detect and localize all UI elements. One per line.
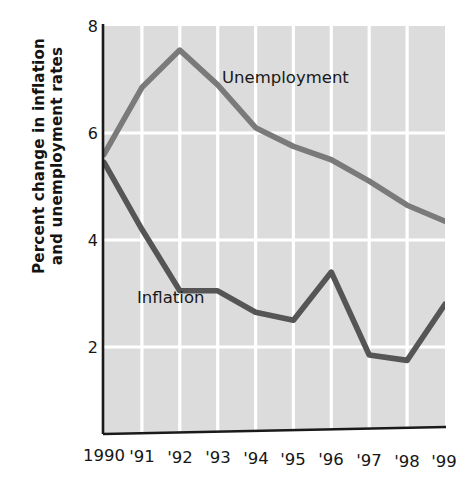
x-tick-label-96: '96 bbox=[318, 450, 344, 469]
x-tick-label-1990: 1990 bbox=[83, 446, 125, 465]
x-tick-label-98: '98 bbox=[394, 452, 420, 471]
x-axis-tick-labels: 1990 '91 '92 '93 '94 '95 '96 '97 '98 '99 bbox=[0, 0, 466, 491]
x-tick-label-95: '95 bbox=[280, 450, 306, 469]
x-tick-label-94: '94 bbox=[243, 449, 269, 468]
x-tick-label-99: '99 bbox=[431, 452, 457, 471]
x-tick-label-93: '93 bbox=[205, 448, 231, 467]
x-tick-label-92: '92 bbox=[167, 448, 193, 467]
chart-figure: Percent change in inflation and unemploy… bbox=[0, 0, 466, 491]
x-tick-label-97: '97 bbox=[356, 451, 382, 470]
x-tick-label-91: '91 bbox=[129, 447, 155, 466]
